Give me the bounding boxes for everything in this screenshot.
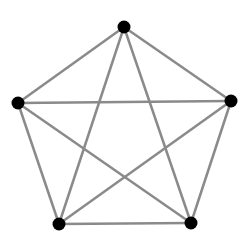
edge-left-right (18, 101, 231, 103)
node-bottom-right (185, 217, 198, 230)
node-top (118, 21, 131, 34)
edge-bottom-left-bottom-right (59, 223, 191, 224)
edge-right-bottom-right (191, 101, 231, 223)
edge-right-bottom-left (59, 101, 231, 224)
edge-top-bottom-left (59, 27, 124, 224)
node-right (225, 95, 238, 108)
complete-graph-k5 (0, 0, 252, 241)
node-left (12, 97, 25, 110)
node-bottom-left (53, 218, 66, 231)
edge-top-right (124, 27, 231, 101)
edge-top-left (18, 27, 124, 103)
edge-top-bottom-right (124, 27, 191, 223)
edges (18, 27, 231, 224)
edge-left-bottom-left (18, 103, 59, 224)
nodes (12, 21, 238, 231)
edge-left-bottom-right (18, 103, 191, 223)
